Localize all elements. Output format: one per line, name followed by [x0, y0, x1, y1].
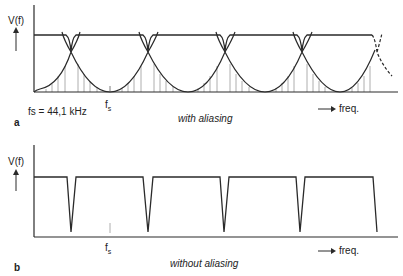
panel-a-letter: a — [14, 118, 20, 128]
panel-a-filter-response — [34, 35, 372, 52]
panel-b-fs-label-sub: s — [108, 248, 112, 255]
panel-b-filter-response — [34, 177, 377, 232]
panel-b-letter: b — [14, 263, 20, 273]
panel-a-sample-rate-note: fs = 44,1 kHz — [28, 107, 87, 117]
panel-a-vf-arrow-icon — [13, 27, 19, 33]
panel-a-freq-arrow-icon — [331, 106, 336, 112]
panel-b-x-label: freq. — [339, 246, 359, 256]
panel-b-freq-arrow-icon — [331, 248, 336, 254]
spectrum-diagram — [0, 0, 403, 276]
panel-a-aliasing-overlap — [372, 33, 392, 76]
panel-a-x-label: freq. — [339, 104, 359, 114]
panel-a-spectra — [34, 32, 375, 92]
panel-a-y-label: V(f) — [8, 16, 24, 26]
panel-a-fs-label: fs — [105, 100, 111, 110]
panel-b-plot — [13, 145, 398, 254]
panel-b-caption: without aliasing — [170, 259, 238, 269]
panel-b-vf-arrow-icon — [13, 169, 19, 175]
panel-a-hatching — [46, 64, 370, 92]
panel-a-plot — [13, 5, 398, 112]
panel-a-fs-label-sub: s — [108, 105, 112, 112]
panel-a-caption: with aliasing — [178, 114, 232, 124]
panel-b-fs-label: fs — [105, 243, 111, 253]
panel-b-y-label: V(f) — [8, 157, 24, 167]
